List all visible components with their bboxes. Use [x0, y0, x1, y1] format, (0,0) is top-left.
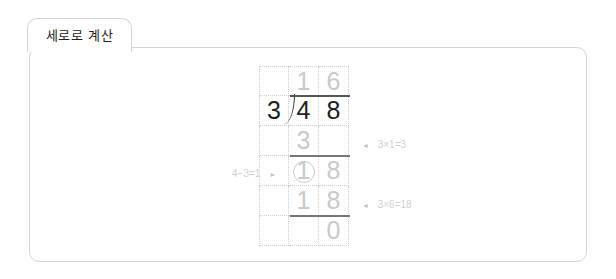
step2-product-ones: 8 [319, 186, 349, 216]
final-remainder: 0 [319, 216, 349, 246]
subtraction-rule-2 [290, 215, 350, 217]
grid-cell [259, 126, 289, 156]
quotient-digit-tens: 1 [289, 66, 319, 96]
arrow-left-icon: ◄ [362, 202, 369, 209]
arrow-right-icon: ► [269, 171, 276, 178]
tab-label: 세로로 계산 [28, 25, 131, 44]
arrow-left-icon: ◄ [362, 142, 369, 149]
annotation-subtract: 4−3=1 ► [232, 168, 276, 179]
step2-product-tens: 1 [289, 186, 319, 216]
brought-down-digit: 8 [319, 156, 349, 186]
circle-marker [293, 161, 315, 183]
section-tab: 세로로 계산 [27, 18, 132, 52]
grid-cell [259, 216, 289, 246]
dividend-digit-ones: 8 [319, 96, 349, 126]
annotation-step2: ◄ 3×6=18 [362, 199, 412, 210]
quotient-digit-ones: 6 [319, 66, 349, 96]
subtraction-rule-1 [290, 155, 350, 157]
grid-cell [319, 126, 349, 156]
grid-cell [289, 216, 319, 246]
grid-cell [259, 186, 289, 216]
division-bar [290, 95, 350, 97]
step1-product: 3 [289, 126, 319, 156]
grid-cell [259, 66, 289, 96]
annotation-step1: ◄ 3×1=3 [362, 139, 406, 150]
